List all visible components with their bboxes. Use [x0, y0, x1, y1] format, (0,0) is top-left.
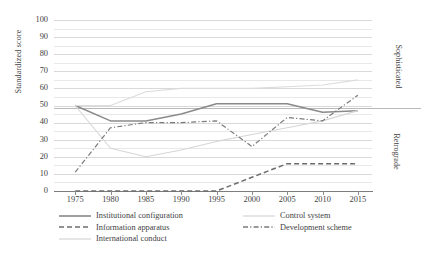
- x-tick-label: 1990: [161, 196, 201, 204]
- dashed-line-swatch: [58, 222, 92, 232]
- y-tick-label: 20: [22, 153, 48, 161]
- y-tick-label: 0: [22, 187, 48, 195]
- series-line-institutional-configuration: [75, 104, 358, 121]
- x-tick-label: 1980: [91, 196, 131, 204]
- y-tick-label: 70: [22, 67, 48, 75]
- legend-item[interactable]: International conduct: [58, 233, 238, 245]
- x-tick-label: 1995: [197, 196, 237, 204]
- line-chart: Standardized score Sophisticated Retrogr…: [0, 0, 421, 253]
- legend-item[interactable]: Information apparatus: [58, 222, 238, 234]
- y-tick-label: 50: [22, 101, 48, 109]
- series-line-information-apparatus: [75, 164, 358, 191]
- solid-line-swatch: [58, 211, 92, 221]
- x-tick-label: 2015: [338, 196, 378, 204]
- legend-item-label: Development scheme: [280, 223, 352, 232]
- legend-item-label: Information apparatus: [96, 223, 170, 232]
- y-tick-label: 80: [22, 50, 48, 58]
- y-tick-label: 10: [22, 170, 48, 178]
- series-line-control-system: [75, 80, 358, 106]
- x-tick-label: 1985: [126, 196, 166, 204]
- legend-column-left: Institutional configurationInformation a…: [58, 210, 238, 245]
- dash-dot-line-swatch: [242, 222, 276, 232]
- series-line-development-scheme: [75, 95, 358, 172]
- legend-item-label: International conduct: [96, 234, 167, 243]
- faint-line-swatch: [242, 211, 276, 221]
- legend-item-label: Control system: [280, 211, 330, 220]
- legend-column-right: Control systemDevelopment scheme: [242, 210, 392, 233]
- y-tick-label: 90: [22, 33, 48, 41]
- legend-item[interactable]: Development scheme: [242, 222, 392, 234]
- series-line-international-conduct: [75, 106, 358, 157]
- faint-line-swatch: [58, 234, 92, 244]
- y-tick-label: 100: [22, 16, 48, 24]
- y-tick-label: 60: [22, 84, 48, 92]
- y-tick-label: 40: [22, 118, 48, 126]
- x-tick-label: 2010: [303, 196, 343, 204]
- x-tick-label: 2005: [267, 196, 307, 204]
- legend-item-label: Institutional configuration: [96, 211, 183, 220]
- legend-item[interactable]: Control system: [242, 210, 392, 222]
- x-tick-label: 2000: [232, 196, 272, 204]
- legend-item[interactable]: Institutional configuration: [58, 210, 238, 222]
- x-tick-label: 1975: [55, 196, 95, 204]
- chart-legend: Institutional configurationInformation a…: [54, 210, 394, 250]
- y-tick-label: 30: [22, 136, 48, 144]
